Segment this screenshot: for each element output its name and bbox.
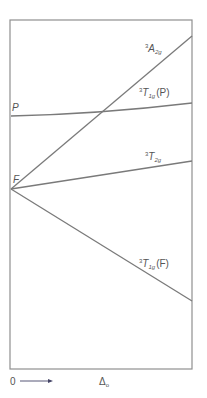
line-3T1g-F	[11, 189, 192, 301]
arrow-right-icon	[20, 379, 53, 383]
energy-level-diagram: P F 3A2g 3T1g(P) 3T2g 3T1g(F) 0 Δo	[0, 0, 207, 398]
state-label-3T2g: 3T2g	[145, 151, 162, 163]
state-label-3A2g: 3A2g	[145, 43, 162, 55]
state-label-3T1g-P: 3T1g(P)	[139, 87, 169, 99]
line-3A2g	[11, 36, 192, 189]
origin-label: 0	[10, 376, 16, 387]
diagram-frame	[10, 20, 192, 369]
term-label-P: P	[12, 102, 19, 113]
x-axis-label: Δo	[99, 376, 110, 388]
line-3T1g-P	[11, 103, 192, 116]
term-label-F: F	[13, 174, 20, 185]
state-label-3T1g-F: 3T1g(F)	[139, 258, 169, 270]
